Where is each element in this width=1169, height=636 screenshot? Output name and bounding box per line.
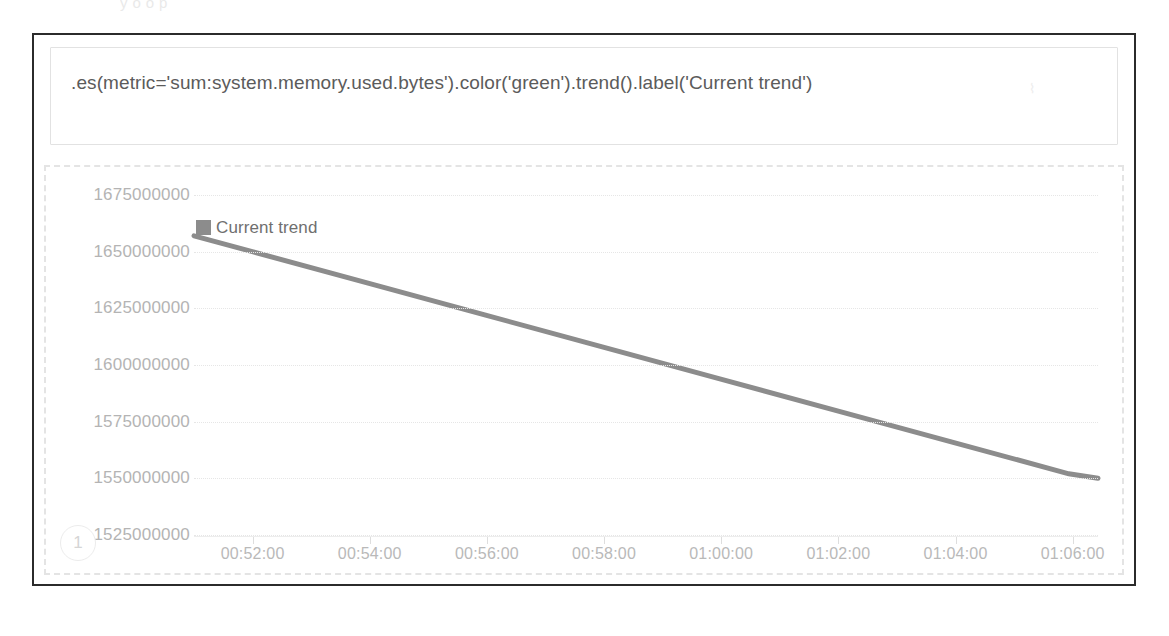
x-axis-tick-label: 01:06:00 [1041, 545, 1105, 563]
legend-label: Current trend [216, 218, 317, 238]
y-axis-tick-label: 1625000000 [93, 298, 190, 318]
text-cursor-icon: ⌇ [1029, 82, 1037, 126]
x-axis-tick-mark [370, 537, 371, 544]
x-axis-line [194, 536, 1098, 537]
chart-legend[interactable]: Current trend [196, 218, 317, 238]
timelion-panel: .es(metric='sum:system.memory.used.bytes… [32, 33, 1136, 586]
x-axis-tick-label: 01:02:00 [806, 545, 870, 563]
y-axis-tick-label: 1550000000 [93, 468, 190, 488]
x-axis-tick-mark [721, 537, 722, 544]
legend-swatch-icon [196, 220, 211, 235]
y-axis-tick-label: 1675000000 [93, 185, 190, 205]
gridline-horizontal [194, 195, 1098, 196]
plot-area[interactable]: Current trend [194, 195, 1098, 535]
gridline-horizontal [194, 308, 1098, 309]
x-axis-tick-mark [838, 537, 839, 544]
x-axis-tick-label: 00:58:00 [572, 545, 636, 563]
gridline-horizontal [194, 252, 1098, 253]
x-axis-tick-mark [956, 537, 957, 544]
series-count-badge[interactable]: 1 [60, 525, 96, 561]
page-bleed-text: y o o p [120, 0, 1120, 16]
expression-value[interactable]: .es(metric='sum:system.memory.used.bytes… [71, 72, 812, 94]
x-axis-tick-label: 00:56:00 [455, 545, 519, 563]
gridline-horizontal [194, 365, 1098, 366]
x-axis-tick-mark [487, 537, 488, 544]
y-axis-tick-label: 1575000000 [93, 412, 190, 432]
expression-input[interactable]: .es(metric='sum:system.memory.used.bytes… [50, 47, 1118, 145]
y-axis-tick-label: 1650000000 [93, 242, 190, 262]
x-axis-tick-label: 00:54:00 [338, 545, 402, 563]
x-axis-tick-label: 00:52:00 [221, 545, 285, 563]
gridline-horizontal [194, 478, 1098, 479]
x-axis-tick-mark [604, 537, 605, 544]
x-axis-tick-mark [1073, 537, 1074, 544]
gridline-horizontal [194, 422, 1098, 423]
y-axis: 1675000000165000000016250000001600000000… [72, 195, 190, 535]
x-axis-tick-mark [253, 537, 254, 544]
x-axis: 00:52:0000:54:0000:56:0000:58:0001:00:00… [194, 545, 1098, 569]
x-axis-tick-label: 01:04:00 [924, 545, 988, 563]
y-axis-tick-label: 1525000000 [93, 525, 190, 545]
x-axis-tick-label: 01:00:00 [689, 545, 753, 563]
y-axis-tick-label: 1600000000 [93, 355, 190, 375]
chart-container[interactable]: 1675000000165000000016250000001600000000… [44, 165, 1124, 575]
